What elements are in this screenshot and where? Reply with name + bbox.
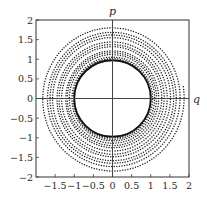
y-tick-label: −2 <box>19 172 33 183</box>
y-tick-label: −1 <box>19 132 33 143</box>
phase-portrait-chart: −1.5−1−0.500.511.52 −2−1.5−1−0.500.511.5… <box>0 0 207 200</box>
y-tick-label: −1.5 <box>10 152 33 163</box>
x-tick-label: 0 <box>109 180 115 191</box>
x-axis-label: q <box>193 93 200 106</box>
y-tick-label: 0.5 <box>18 73 33 84</box>
y-tick-label: 2 <box>27 15 33 26</box>
x-tick-label: 1 <box>148 180 154 191</box>
x-tick-label: −1 <box>67 180 81 191</box>
y-tick-label: 1 <box>27 54 33 65</box>
x-tick-label: 0.5 <box>124 180 139 191</box>
trajectory-dotted-spiral <box>42 27 185 172</box>
y-tick-label: −0.5 <box>10 113 33 124</box>
x-tick-label: 2 <box>186 180 192 191</box>
origin-axes <box>36 20 189 177</box>
y-axis-label: p <box>109 5 116 18</box>
x-tick-label: 1.5 <box>162 180 177 191</box>
x-tick-label: −0.5 <box>82 180 105 191</box>
y-tick-label: 1.5 <box>18 34 33 45</box>
y-axis-ticks: −2−1.5−1−0.500.511.52 <box>10 15 39 183</box>
y-tick-label: 0 <box>27 93 33 104</box>
plot-canvas: −1.5−1−0.500.511.52 −2−1.5−1−0.500.511.5… <box>0 0 207 200</box>
x-tick-label: −1.5 <box>44 180 67 191</box>
